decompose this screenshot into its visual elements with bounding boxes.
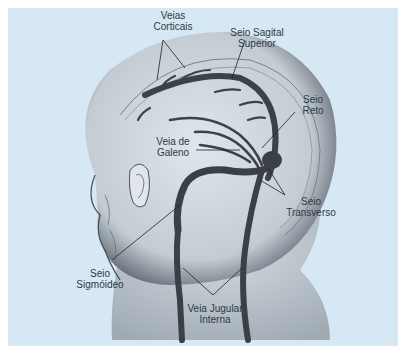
ear	[129, 164, 149, 207]
label-veia-de-galeno: Veia de Galeno	[148, 136, 198, 158]
label-seio-reto: Seio Reto	[296, 94, 330, 116]
label-veias-corticais: Veias Corticais	[148, 10, 198, 32]
label-seio-transverso: Seio Transverso	[282, 196, 340, 218]
label-veia-jugular-interna: Veia Jugular Interna	[180, 303, 250, 325]
label-seio-sigmoideo: Seio Sigmóideo	[72, 268, 128, 290]
label-seio-sagital-superior: Seio Sagital Superior	[222, 27, 292, 49]
